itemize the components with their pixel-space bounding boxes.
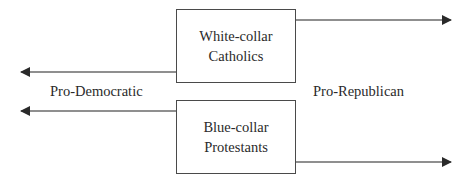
- box-white-collar-catholics: White-collar Catholics: [176, 9, 296, 83]
- label-pro-republican: Pro-Republican: [313, 83, 404, 100]
- box-blue-collar-protestants: Blue-collar Protestants: [176, 100, 296, 174]
- label-pro-democratic: Pro-Democratic: [50, 83, 143, 100]
- box-label: Blue-collar Protestants: [203, 117, 268, 157]
- box-label: White-collar Catholics: [199, 26, 272, 66]
- diagram-canvas: White-collar Catholics Blue-collar Prote…: [0, 0, 470, 186]
